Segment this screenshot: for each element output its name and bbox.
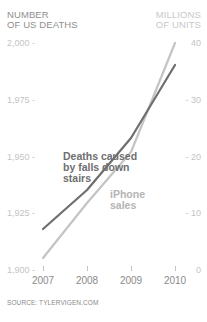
x-tick-marks: [44, 266, 176, 271]
source-note: SOURCE: TYLERVIGEN.COM: [7, 299, 99, 306]
deaths-label-line3: stairs: [63, 173, 137, 184]
x-tick-2007: 2007: [32, 275, 54, 286]
iphone-series-label: iPhone sales: [110, 189, 145, 211]
x-tick-2008: 2008: [76, 275, 98, 286]
deaths-series-label: Deaths caused by falls down stairs: [63, 151, 137, 184]
x-tick-2009: 2009: [120, 275, 142, 286]
iphone-label-line2: sales: [110, 200, 145, 211]
x-tick-2010: 2010: [164, 275, 186, 286]
